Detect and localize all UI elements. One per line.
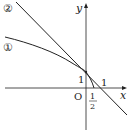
curve-2-label: ② (3, 2, 13, 15)
y-axis-arrow-icon (84, 3, 88, 8)
x-axis-label: x (120, 89, 127, 102)
y-axis-label: y (75, 2, 83, 15)
x-half-denominator: 2 (90, 102, 95, 111)
graph-diagram: ② ① y x O 1 1 1 2 (0, 0, 131, 139)
y-intercept-label: 1 (78, 74, 84, 85)
curve-1-label: ① (3, 41, 13, 54)
intersection-point (85, 71, 87, 73)
line-2 (16, 2, 127, 115)
origin-label: O (74, 91, 82, 102)
x-one-label: 1 (101, 77, 107, 88)
x-half-numerator: 1 (90, 92, 95, 101)
